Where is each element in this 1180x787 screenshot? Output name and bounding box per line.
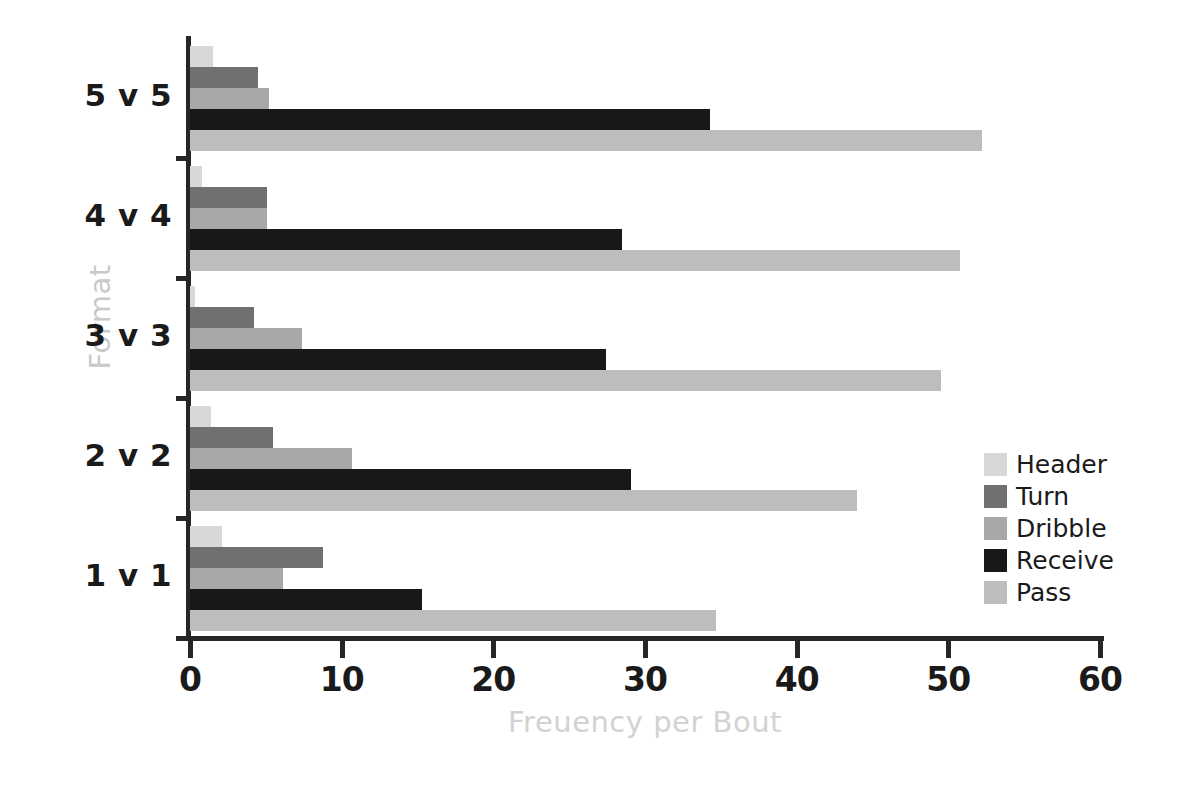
legend-item: Receive — [984, 544, 1164, 576]
bar — [190, 469, 631, 490]
legend-item: Pass — [984, 576, 1164, 608]
legend-swatch-icon — [984, 485, 1007, 508]
legend-label: Receive — [1016, 546, 1114, 575]
y-axis-tick-label: 4 v 4 — [60, 197, 172, 233]
bar — [190, 448, 352, 469]
x-axis-tick — [795, 641, 800, 658]
bar — [190, 46, 213, 67]
x-axis-tick-label: 60 — [1055, 660, 1145, 699]
bar-group — [190, 398, 1100, 518]
x-axis-tick-label: 10 — [297, 660, 387, 699]
bar — [190, 130, 982, 151]
bar — [190, 187, 267, 208]
bar — [190, 208, 267, 229]
x-axis-tick — [643, 641, 648, 658]
bar — [190, 370, 941, 391]
bar — [190, 490, 857, 511]
x-axis-tick — [491, 641, 496, 658]
x-axis-title: Freuency per Bout — [190, 705, 1100, 739]
bar — [190, 166, 202, 187]
chart-legend: HeaderTurnDribbleReceivePass — [984, 448, 1164, 608]
y-axis-tick — [176, 636, 188, 641]
bar — [190, 427, 273, 448]
legend-swatch-icon — [984, 549, 1007, 572]
y-axis-tick — [176, 276, 188, 281]
y-axis-tick — [176, 156, 188, 161]
x-axis-tick — [946, 641, 951, 658]
y-axis-tick — [176, 516, 188, 521]
y-axis-tick-label: 3 v 3 — [60, 317, 172, 353]
bar — [190, 307, 254, 328]
bar — [190, 547, 323, 568]
bar-group — [190, 158, 1100, 278]
legend-label: Turn — [1016, 482, 1069, 511]
bar-chart-figure: Format Freuency per Bout 5 v 54 v 43 v 3… — [0, 0, 1180, 787]
x-axis-tick-label: 30 — [600, 660, 690, 699]
legend-swatch-icon — [984, 453, 1007, 476]
legend-swatch-icon — [984, 581, 1007, 604]
bar — [190, 250, 960, 271]
x-axis-tick — [1098, 641, 1103, 658]
bar — [190, 568, 283, 589]
x-axis-tick-label: 40 — [752, 660, 842, 699]
legend-item: Header — [984, 448, 1164, 480]
bar-group — [190, 518, 1100, 638]
bar — [190, 229, 622, 250]
y-axis-tick-label: 1 v 1 — [60, 557, 172, 593]
y-axis-tick-label: 5 v 5 — [60, 77, 172, 113]
bar — [190, 526, 222, 547]
bar — [190, 406, 211, 427]
bar — [190, 109, 710, 130]
bar — [190, 67, 258, 88]
x-axis-tick — [340, 641, 345, 658]
bar-group — [190, 278, 1100, 398]
legend-label: Dribble — [1016, 514, 1107, 543]
bar — [190, 88, 269, 109]
x-axis-tick-label: 0 — [145, 660, 235, 699]
legend-label: Pass — [1016, 578, 1071, 607]
bar — [190, 589, 422, 610]
y-axis-tick-label: 2 v 2 — [60, 437, 172, 473]
plot-area — [190, 38, 1100, 638]
bar — [190, 610, 716, 631]
y-axis-tick — [176, 396, 188, 401]
x-axis-tick — [188, 641, 193, 658]
legend-item: Turn — [984, 480, 1164, 512]
x-axis-tick-label: 20 — [448, 660, 538, 699]
bar — [190, 328, 302, 349]
bar-group — [190, 38, 1100, 158]
legend-swatch-icon — [984, 517, 1007, 540]
legend-item: Dribble — [984, 512, 1164, 544]
bar — [190, 349, 606, 370]
x-axis-tick-label: 50 — [903, 660, 993, 699]
legend-label: Header — [1016, 450, 1107, 479]
bar — [190, 286, 195, 307]
